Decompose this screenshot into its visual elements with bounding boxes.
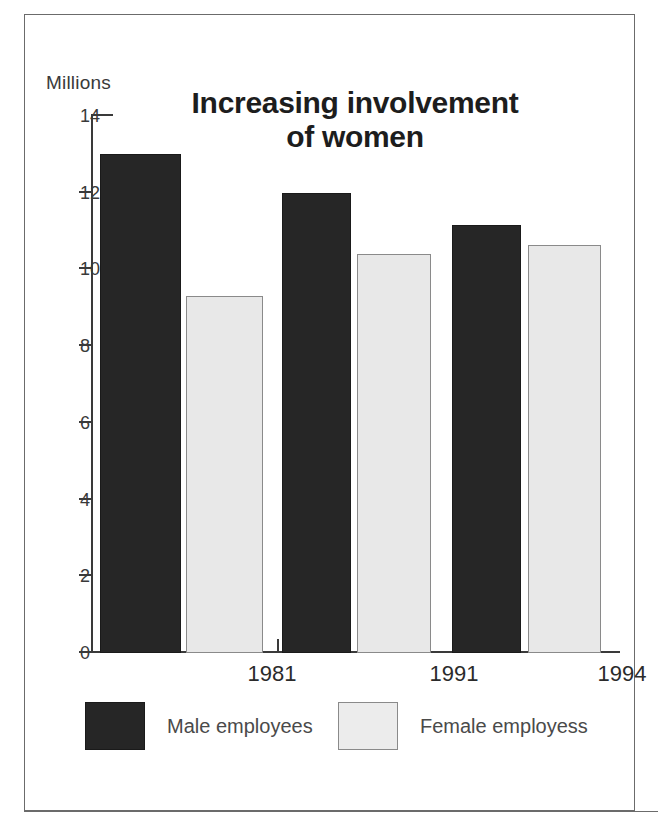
chart-title-line-1: Increasing involvement — [160, 86, 550, 120]
y-axis-tick-label: 10 — [80, 259, 81, 280]
y-axis-tick-label: 6 — [80, 412, 81, 433]
y-axis-tick-label: 8 — [80, 336, 81, 357]
y-axis-tick-label: 12 — [80, 182, 81, 203]
y-axis-tick-label: 4 — [80, 489, 81, 510]
legend-item-male: Male employees — [85, 702, 313, 750]
bar-male-1991 — [282, 193, 351, 653]
bar-chart: Millions Increasing involvement of women… — [0, 0, 658, 823]
x-axis-label-1994: 1994 — [598, 661, 647, 687]
bar-male-1981 — [100, 154, 181, 653]
plot-area: 02468101214 198119911994 — [91, 116, 620, 653]
bar-female-1994 — [528, 245, 601, 654]
x-axis-label-1981: 1981 — [248, 661, 297, 687]
bar-female-1981 — [186, 296, 263, 653]
y-axis-tick-label: 14 — [80, 106, 81, 127]
x-axis-tick — [277, 639, 279, 653]
y-axis-unit-label: Millions — [46, 72, 111, 94]
bar-female-1991 — [357, 254, 431, 653]
legend-swatch-male-icon — [85, 702, 145, 750]
y-axis-tick-label: 0 — [80, 643, 81, 664]
x-axis-label-1991: 1991 — [430, 661, 479, 687]
chart-legend: Male employees Female employess — [85, 702, 615, 754]
y-axis-tick-label: 2 — [80, 566, 81, 587]
legend-swatch-female-icon — [338, 702, 398, 750]
legend-label-female: Female employess — [420, 715, 588, 738]
legend-label-male: Male employees — [167, 715, 313, 738]
bar-male-1994 — [452, 225, 521, 653]
legend-item-female: Female employess — [338, 702, 588, 750]
